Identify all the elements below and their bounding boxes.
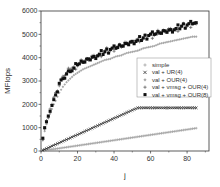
square-marker: [102, 53, 105, 56]
diamond-marker: [164, 41, 167, 44]
square-marker: [184, 27, 187, 30]
diamond-marker: [118, 54, 121, 57]
y-tick-label: 4000: [22, 54, 38, 61]
square-marker: [138, 35, 141, 38]
diamond-marker: [175, 39, 178, 42]
square-marker: [72, 67, 75, 70]
square-marker: [178, 27, 181, 30]
square-marker: [98, 53, 101, 56]
diamond-marker: [135, 50, 138, 53]
diamond-marker: [60, 88, 63, 91]
square-marker: [175, 27, 178, 30]
square-marker: [78, 62, 81, 65]
diamond-marker: [160, 42, 163, 45]
y-tick-label: 5000: [22, 31, 38, 38]
y-axis-label: MFlops: [3, 68, 12, 94]
square-marker: [182, 22, 185, 25]
square-marker: [160, 32, 163, 35]
square-marker: [195, 21, 198, 24]
diamond-marker: [182, 37, 185, 40]
x-tick-label: 0: [39, 155, 43, 162]
x-tick-label: 80: [183, 155, 191, 162]
diamond-marker: [186, 37, 189, 40]
square-marker: [56, 90, 59, 93]
x-axis: 020406080: [39, 151, 205, 162]
square-marker: [127, 43, 130, 46]
diamond-marker: [146, 46, 149, 49]
diamond-marker: [168, 40, 171, 43]
plus-marker: [195, 127, 198, 130]
square-marker: [45, 120, 48, 123]
diamond-marker: [149, 45, 152, 48]
square-marker: [49, 110, 52, 113]
diamond-marker: [189, 36, 192, 39]
diamond-marker: [144, 47, 147, 50]
square-marker: [58, 82, 61, 85]
square-marker: [107, 52, 110, 55]
diamond-marker: [188, 36, 191, 39]
square-marker: [63, 77, 66, 80]
chart: 0100020003000400050006000 020406080 j MF…: [0, 0, 220, 187]
square-marker: [144, 34, 147, 37]
square-marker: [89, 58, 92, 61]
diamond-marker: [177, 38, 180, 41]
square-marker: [145, 38, 148, 41]
legend-entry: val + vmsg + OUR(8): [143, 92, 208, 98]
legend-label: val + vmsg + OUR(4): [152, 84, 208, 90]
diamond-marker: [195, 35, 198, 38]
y-tick-label: 0: [34, 147, 38, 154]
legend: simpleval + UR(4)val + OUR(4)val + vmsg …: [137, 58, 211, 98]
y-tick-label: 3000: [22, 77, 38, 84]
diamond-marker: [127, 51, 130, 54]
plus-marker: [112, 50, 115, 53]
legend-label: val + vmsg + OUR(8): [152, 92, 208, 98]
diamond-marker: [133, 50, 136, 53]
diamond-marker: [129, 51, 132, 54]
x-tick-label: 40: [110, 155, 118, 162]
diamond-marker: [107, 58, 110, 61]
square-marker: [176, 23, 179, 26]
y-axis: 0100020003000400050006000: [22, 7, 41, 154]
legend-entry: val + vmsg + OUR(4): [143, 84, 208, 90]
diamond-marker: [105, 58, 108, 61]
diamond-marker: [63, 83, 66, 86]
series-val-ur-4-: [42, 107, 198, 152]
diamond-marker: [69, 77, 72, 80]
y-tick-label: 2000: [22, 101, 38, 108]
square-marker: [143, 93, 146, 96]
diamond-marker: [178, 38, 181, 41]
legend-label: simple: [152, 62, 170, 68]
square-marker: [142, 36, 145, 39]
x-axis-label: j: [123, 171, 126, 180]
square-marker: [47, 114, 50, 117]
square-marker: [50, 104, 53, 107]
diamond-marker: [147, 46, 150, 49]
square-marker: [83, 61, 86, 64]
diamond-marker: [65, 81, 68, 84]
square-marker: [122, 45, 125, 48]
diamond-marker: [169, 40, 172, 43]
square-marker: [71, 69, 74, 72]
diamond-marker: [151, 45, 154, 48]
x-tick-label: 60: [147, 155, 155, 162]
diamond-marker: [131, 51, 134, 54]
diamond-marker: [171, 40, 174, 43]
y-tick-label: 1000: [22, 124, 38, 131]
square-marker: [54, 93, 57, 96]
square-marker: [100, 49, 103, 52]
square-marker: [94, 57, 97, 60]
x-tick-label: 20: [74, 155, 82, 162]
square-marker: [116, 46, 119, 49]
diamond-marker: [166, 41, 169, 44]
diamond-marker: [162, 42, 165, 45]
series-simple: [42, 127, 198, 152]
legend-label: val + OUR(4): [152, 77, 187, 83]
square-marker: [140, 39, 143, 42]
square-marker: [52, 98, 55, 101]
square-marker: [41, 137, 44, 140]
cross-marker: [195, 107, 198, 110]
diamond-marker: [184, 37, 187, 40]
diamond-marker: [67, 79, 70, 82]
square-marker: [43, 126, 46, 129]
diamond-marker: [180, 38, 183, 41]
